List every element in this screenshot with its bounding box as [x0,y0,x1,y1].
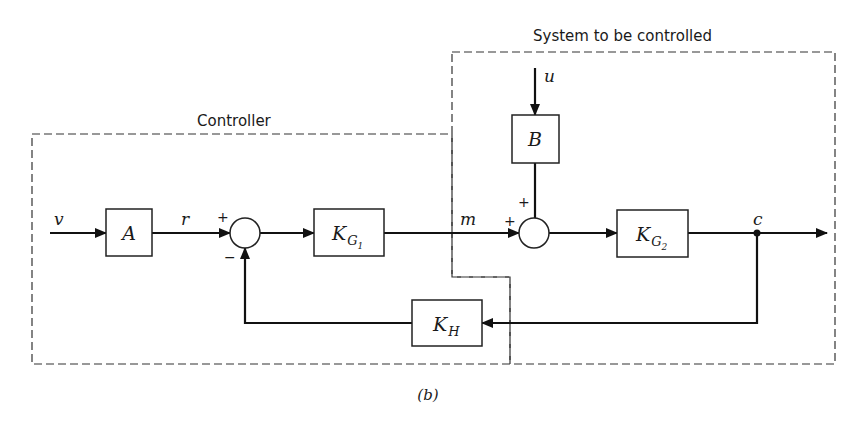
sum1-plus-sign: + [217,209,229,225]
signal-u-label: u [544,66,555,86]
signal-c-label: c [753,209,763,229]
takeoff-point-c [754,230,761,237]
wire-KH-to-sum1 [245,248,412,323]
controller-label: Controller [197,112,272,130]
block-KG2-subsub: 2 [661,242,668,252]
plant-label: System to be controlled [533,27,712,45]
block-KH-label: K [432,313,449,335]
signal-v-label: v [54,209,64,229]
block-KH: KH [412,300,482,346]
sum1-minus-sign: − [224,249,236,265]
block-A-label: A [120,222,136,244]
block-KH-sub: H [447,324,460,339]
summing-junction-2: + + [504,194,549,248]
block-B-label: B [527,128,542,150]
block-KG2-label: K [635,223,652,245]
block-KG1-label: K [331,222,348,244]
summing-junction-1: + − [217,209,260,265]
block-diagram: Controller System to be controlled A KG1… [0,0,865,435]
signal-m-label: m [460,209,476,229]
block-KG1-sub: G [347,233,357,248]
block-KG2: KG2 [617,210,688,257]
sum2-plus-left-sign: + [504,213,516,229]
block-KG2-sub: G [651,234,661,249]
sum2-plus-top-sign: + [518,194,530,210]
block-A: A [106,209,152,256]
figure-caption: (b) [417,386,438,404]
block-KG1-subsub: 1 [358,241,364,251]
block-KG1: KG1 [314,209,384,256]
signal-r-label: r [181,209,190,229]
block-B: B [512,115,559,163]
